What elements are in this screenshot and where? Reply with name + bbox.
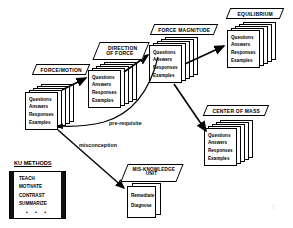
card-field-examples: Examples xyxy=(208,157,234,162)
card-fields-mis-knowledge-unit: Remediate Diagnose xyxy=(131,192,153,211)
edge-label-misconception: misconception xyxy=(79,142,117,148)
node-label-force-motion: FORCE/MOTION xyxy=(32,64,90,75)
legend-title: KU METHODS xyxy=(14,160,52,166)
card-field-answers: Answers xyxy=(231,43,257,48)
legend-box: TEACH MOTIVATE CONTRAST SUMMARIZE • • • xyxy=(9,171,66,219)
legend-bar-left xyxy=(10,172,14,218)
node-label-text-center-of-mass: CENTER OF MASS xyxy=(206,106,266,114)
legend-ellipsis: • • • xyxy=(19,210,56,215)
card-field-examples: Examples xyxy=(231,59,257,64)
stack-card-front-force-magnitude: Questions Answers Responses Examples xyxy=(149,45,182,83)
card-field-responses: Responses xyxy=(92,91,118,96)
node-label-center-of-mass: CENTER OF MASS xyxy=(203,105,269,116)
legend-bar-right xyxy=(61,172,65,218)
stack-card-front-equilibrium: Questions Answers Responses Examples xyxy=(227,30,260,68)
node-label-text-equilibrium: EQUILIBRIUM xyxy=(229,9,281,17)
node-stack-force-motion: Questions Answers Responses Examples xyxy=(25,84,75,132)
card-field-answers: Answers xyxy=(208,141,234,146)
card-field-questions: Questions xyxy=(92,76,118,81)
legend-item-contrast: CONTRAST xyxy=(19,194,56,199)
card-field-responses: Responses xyxy=(208,149,234,154)
diagram-canvas: FORCE/MOTION Questions Answers Responses… xyxy=(0,0,293,228)
edge-label-prerequisite: pre-requisite xyxy=(109,120,142,126)
node-label-equilibrium: EQUILIBRIUM xyxy=(226,8,284,19)
card-field-answers: Answers xyxy=(29,105,55,110)
card-field-questions: Questions xyxy=(208,134,234,139)
arrow-misconception xyxy=(58,130,124,188)
node-stack-center-of-mass: Questions Answers Responses Examples xyxy=(204,120,254,168)
arrow-force-magnitude-to-center-of-mass xyxy=(174,84,206,131)
card-field-examples: Examples xyxy=(153,74,179,79)
node-label-direction-of-force: DIRECTION OF FORCE xyxy=(92,42,149,60)
card-field-responses: Responses xyxy=(231,51,257,56)
card-field-questions: Questions xyxy=(153,51,179,56)
legend-item-motivate: MOTIVATE xyxy=(19,185,56,190)
node-stack-mis-knowledge-unit: Remediate Diagnose xyxy=(127,183,169,221)
legend-item-teach: TEACH xyxy=(19,177,56,182)
legend-item-summarize: SUMMARIZE xyxy=(19,202,56,207)
stack-card-front-direction-of-force: Questions Answers Responses Examples xyxy=(88,70,121,108)
card-field-examples: Examples xyxy=(92,99,118,104)
card-fields-direction-of-force: Questions Answers Responses Examples xyxy=(92,74,118,105)
node-stack-force-magnitude: Questions Answers Responses Examples xyxy=(149,37,199,85)
card-fields-force-magnitude: Questions Answers Responses Examples xyxy=(153,49,179,80)
card-field-answers: Answers xyxy=(153,58,179,63)
node-label-force-magnitude: FORCE MAGNITUDE xyxy=(150,24,218,35)
card-field-responses: Responses xyxy=(153,66,179,71)
node-label-text-mis-knowledge-line2: UNIT xyxy=(124,172,178,177)
legend-items: TEACH MOTIVATE CONTRAST SUMMARIZE • • • xyxy=(19,177,56,215)
scan-artifact: /; xyxy=(272,203,276,210)
card-field-answers: Answers xyxy=(92,83,118,88)
stack-card-front-mis-knowledge-unit: Remediate Diagnose xyxy=(127,186,156,218)
card-field-diagnose: Diagnose xyxy=(131,204,153,209)
card-fields-equilibrium: Questions Answers Responses Examples xyxy=(231,34,257,65)
node-stack-direction-of-force: Questions Answers Responses Examples xyxy=(88,62,138,110)
node-stack-equilibrium: Questions Answers Responses Examples xyxy=(227,22,277,70)
card-field-examples: Examples xyxy=(29,121,55,126)
node-label-text-force-motion: FORCE/MOTION xyxy=(35,65,87,73)
card-field-questions: Questions xyxy=(29,98,55,103)
stack-card-front-force-motion: Questions Answers Responses Examples xyxy=(25,92,58,130)
card-field-remediate: Remediate xyxy=(131,194,153,199)
node-label-text-direction-line2: OF FORCE xyxy=(96,51,144,56)
card-field-responses: Responses xyxy=(29,113,55,118)
node-label-text-force-magnitude: FORCE MAGNITUDE xyxy=(153,25,215,33)
card-field-questions: Questions xyxy=(231,36,257,41)
stack-card-front-center-of-mass: Questions Answers Responses Examples xyxy=(204,128,237,166)
node-label-mis-knowledge-unit: MIS-KNOWLEDGE UNIT xyxy=(120,164,183,182)
card-fields-center-of-mass: Questions Answers Responses Examples xyxy=(208,132,234,163)
card-fields-force-motion: Questions Answers Responses Examples xyxy=(29,96,55,127)
